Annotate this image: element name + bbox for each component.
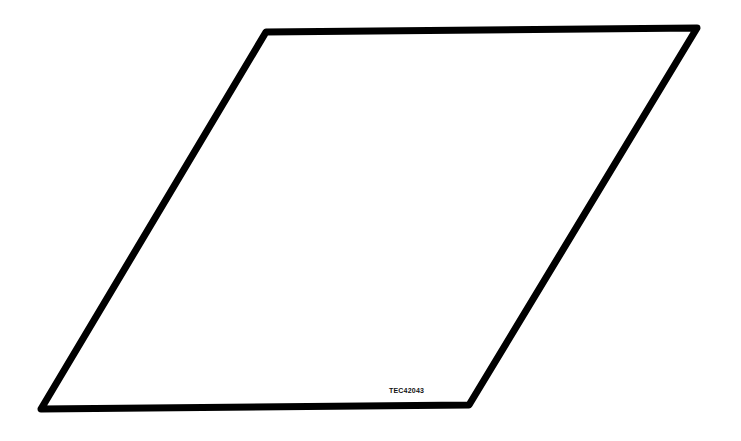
- parallelogram-shape: [41, 28, 697, 409]
- diagram-canvas: [0, 0, 741, 441]
- figure-id-label: TEC42043: [389, 387, 424, 394]
